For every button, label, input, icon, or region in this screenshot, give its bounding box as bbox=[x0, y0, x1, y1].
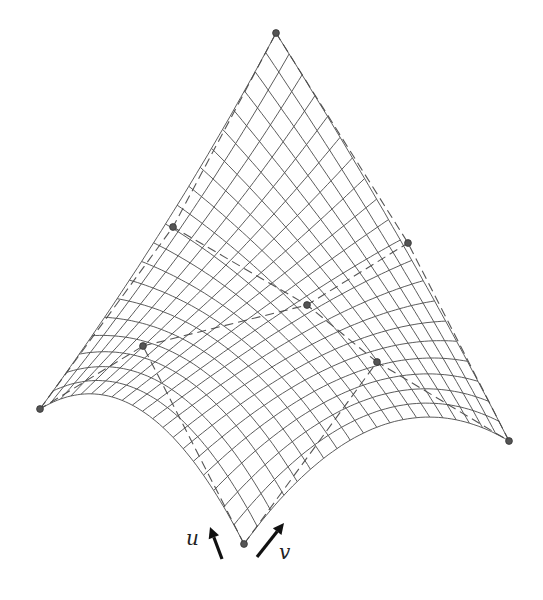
control-point-icon bbox=[304, 302, 311, 309]
mesh-isoline-u bbox=[153, 260, 412, 418]
control-point-icon bbox=[241, 541, 248, 548]
control-net-column bbox=[40, 346, 244, 544]
mesh-isoline-v bbox=[255, 72, 483, 428]
control-point-icon bbox=[506, 438, 513, 445]
u-axis-label: u bbox=[186, 526, 199, 550]
mesh-isoline-v bbox=[234, 110, 457, 420]
mesh-isoline-u bbox=[112, 179, 365, 397]
mesh-isoline-v bbox=[40, 394, 244, 544]
control-point-icon bbox=[273, 30, 280, 37]
v-arrow-icon bbox=[257, 532, 277, 557]
mesh-isoline-u bbox=[122, 199, 377, 400]
control-point-icon bbox=[374, 359, 381, 366]
control-points bbox=[37, 30, 513, 548]
control-net bbox=[40, 33, 509, 544]
v-direction-arrow: v bbox=[257, 523, 291, 564]
mesh-isoline-u bbox=[71, 96, 315, 396]
mesh-isoline-u bbox=[40, 33, 276, 409]
mesh-isoline-v bbox=[154, 243, 364, 433]
control-point-icon bbox=[37, 406, 44, 413]
control-point-icon bbox=[140, 343, 147, 350]
surface-mesh bbox=[40, 33, 509, 544]
bezier-surface-figure: u v bbox=[0, 0, 543, 600]
control-point-icon bbox=[405, 240, 412, 247]
mesh-isoline-u bbox=[244, 417, 509, 544]
control-net-row bbox=[40, 33, 276, 409]
control-net-row bbox=[244, 362, 509, 544]
v-axis-label: v bbox=[279, 540, 291, 564]
control-point-icon bbox=[170, 224, 177, 231]
mesh-isoline-u bbox=[204, 358, 468, 475]
mesh-isoline-u bbox=[173, 301, 434, 438]
u-direction-arrow: u bbox=[186, 526, 222, 559]
mesh-isoline-u bbox=[61, 75, 303, 399]
u-arrow-icon bbox=[214, 537, 222, 559]
mesh-isoline-v bbox=[79, 352, 284, 496]
mesh-isoline-u bbox=[224, 389, 489, 507]
